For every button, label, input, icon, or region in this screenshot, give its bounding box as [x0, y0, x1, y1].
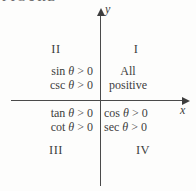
trig-sign-line: cos θ > 0: [104, 106, 148, 120]
trig-sign-line: sin θ > 0: [50, 64, 93, 78]
theta-symbol: θ: [123, 106, 129, 120]
trig-sign-line: sec θ > 0: [104, 120, 148, 134]
x-axis-label: x: [180, 104, 185, 116]
clipped-figure-caption-text: FIGURE: [2, 0, 82, 3]
clipped-figure-caption: FIGURE: [2, 0, 82, 3]
quadrant-signs-diagram: FIGURE y x II I III IV sin θ > 0 csc θ >…: [0, 0, 196, 191]
quadrant-2-numeral: II: [36, 42, 76, 56]
quadrant-2-signs: sin θ > 0 csc θ > 0: [50, 64, 93, 92]
theta-symbol: θ: [122, 120, 128, 134]
quadrant-4-numeral: IV: [123, 143, 163, 157]
y-axis-arrowhead-icon: [97, 8, 105, 16]
all-positive-line-1: All: [103, 64, 153, 78]
all-positive-line-2: positive: [103, 78, 153, 92]
quadrant-4-signs: cos θ > 0 sec θ > 0: [104, 106, 148, 134]
quadrant-3-signs: tan θ > 0 cot θ > 0: [51, 106, 93, 134]
x-axis-line: [11, 100, 183, 101]
quadrant-1-numeral: I: [116, 42, 156, 56]
quadrant-3-numeral: III: [36, 143, 76, 157]
trig-sign-line: csc θ > 0: [50, 78, 93, 92]
theta-symbol: θ: [68, 120, 74, 134]
y-axis-label: y: [105, 3, 110, 15]
quadrant-1-signs: All positive: [103, 64, 153, 92]
theta-symbol: θ: [68, 64, 74, 78]
theta-symbol: θ: [68, 106, 74, 120]
trig-sign-line: cot θ > 0: [51, 120, 93, 134]
trig-sign-line: tan θ > 0: [51, 106, 93, 120]
theta-symbol: θ: [68, 78, 74, 92]
